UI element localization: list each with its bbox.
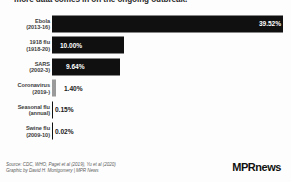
row-label-swine-flu: Swine flu (2009-10): [0, 125, 50, 138]
bar-value-coronavirus: 1.40%: [64, 85, 82, 92]
bar-value-swine-flu: 0.02%: [55, 128, 73, 135]
bar-seasonal-flu[interactable]: [52, 101, 53, 118]
bar-track: 39.52%: [52, 15, 285, 32]
bar-track: 10.00%: [52, 37, 285, 54]
chart-row: 1918 flu (1918-20) 10.00%: [0, 35, 291, 57]
chart-row: Swine flu (2009-10) 0.02%: [0, 121, 291, 143]
bar-ebola[interactable]: [52, 15, 283, 32]
credit-text: Graphic by David H. Montgomery | MPR New…: [6, 168, 186, 174]
bar-value-1918-flu: 10.00%: [60, 42, 82, 49]
row-label-coronavirus: Coronavirus (2019-): [0, 82, 50, 95]
logo-mpr-text: MPR: [232, 161, 255, 173]
bar-track: 9.64%: [52, 58, 285, 75]
chart-row: Coronavirus (2019-) 1.40%: [0, 78, 291, 100]
bar-track: 0.02%: [52, 123, 285, 140]
chart-row: SARS (2002-3) 9.64%: [0, 56, 291, 78]
mpr-news-logo: MPRnews: [232, 161, 281, 173]
bar-sars[interactable]: [52, 58, 120, 75]
row-label-seasonal-flu: Seasonal flu (annual): [0, 103, 50, 116]
row-label-1918-flu: 1918 flu (1918-20): [0, 39, 50, 52]
chart-headline: more data comes in on the ongoing outbre…: [14, 0, 276, 4]
chart-row: Seasonal flu (annual) 0.15%: [0, 99, 291, 121]
bar-track: 0.15%: [52, 101, 285, 118]
row-label-sars: SARS (2002-3): [0, 60, 50, 73]
infographic-root: more data comes in on the ongoing outbre…: [0, 0, 291, 182]
chart-row: Ebola (2013-16) 39.52%: [0, 13, 291, 35]
bar-value-ebola: 39.52%: [259, 20, 281, 27]
bar-track: 1.40%: [52, 80, 285, 97]
bar-chart: Ebola (2013-16) 39.52% 1918 flu (1918-20…: [0, 13, 291, 150]
bar-value-sars: 9.64%: [66, 63, 84, 70]
bar-coronavirus[interactable]: [52, 80, 56, 97]
row-label-ebola: Ebola (2013-16): [0, 17, 50, 30]
footer: Source: CDC, WHO, Paget et al (2019), Yu…: [6, 162, 186, 174]
logo-news-text: news: [255, 161, 281, 173]
bar-swine-flu[interactable]: [52, 123, 53, 140]
bar-value-seasonal-flu: 0.15%: [55, 106, 73, 113]
